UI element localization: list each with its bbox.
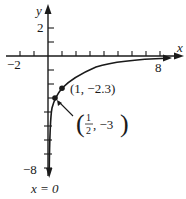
curve-down-arrow-icon — [46, 168, 52, 178]
x-axis-ticks — [20, 51, 160, 56]
point-half-neg3 — [52, 95, 58, 101]
chart-canvas: y 2 x −2 8 (1, −2.3) ( 1 2 , −3 ) −8 x =… — [0, 0, 186, 199]
point-half-y: , −3 — [93, 117, 113, 132]
y-axis-arrow-icon — [45, 4, 52, 14]
y-tick-label-neg8: −8 — [23, 162, 37, 177]
paren-open: ( — [76, 109, 85, 138]
point-1-label: (1, −2.3) — [70, 81, 115, 96]
point-1-neg2.3 — [59, 85, 65, 91]
paren-close: ) — [120, 109, 129, 138]
y-tick-label-2: 2 — [37, 20, 44, 35]
point-half-label: ( 1 2 , −3 ) — [76, 109, 129, 138]
x-axis-label: x — [176, 40, 183, 55]
fraction-numerator: 1 — [86, 112, 91, 123]
y-axis-label: y — [34, 3, 42, 18]
x-tick-label-neg2: −2 — [7, 57, 21, 72]
asymptote-label: x = 0 — [30, 181, 59, 196]
x-tick-label-8: 8 — [155, 60, 162, 75]
pointer-arrowhead-icon — [57, 100, 62, 106]
pointer-arrow — [57, 100, 73, 116]
fraction-denominator: 2 — [86, 125, 91, 136]
